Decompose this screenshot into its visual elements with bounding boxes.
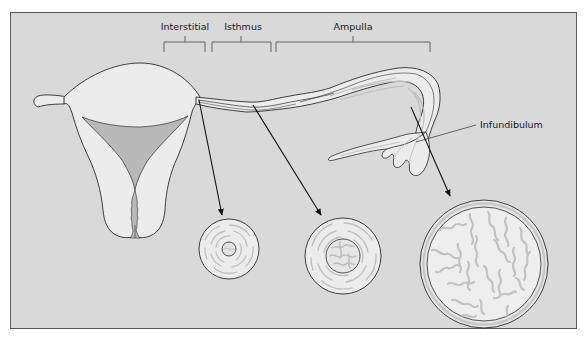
label-infundibulum: Infundibulum — [480, 119, 543, 130]
cross-section-isthmus — [305, 218, 381, 294]
label-isthmus: Isthmus — [224, 21, 262, 32]
label-ampulla: Ampulla — [334, 21, 373, 32]
cross-section-interstitial — [199, 219, 259, 279]
cross-section-ampulla — [420, 200, 548, 328]
fallopian-tube-diagram: Interstitial Isthmus Ampulla — [0, 0, 588, 341]
label-interstitial: Interstitial — [161, 21, 209, 32]
